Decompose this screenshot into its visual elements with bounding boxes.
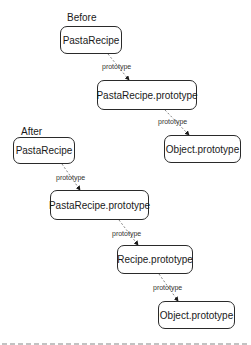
edges-layer	[0, 0, 251, 345]
before-edge-label-1: prototype	[102, 63, 131, 70]
before-label: Before	[67, 13, 96, 23]
after-node-recipe-prototype: Recipe.prototype	[117, 245, 193, 274]
after-node-pastarecipe-prototype: PastaRecipe.prototype	[50, 190, 149, 220]
before-edge-label-2: prototype	[158, 118, 187, 125]
before-node-pastarecipe-prototype: PastaRecipe.prototype	[97, 80, 197, 110]
before-node-object-prototype: Object.prototype	[164, 135, 241, 163]
before-node-pastarecipe: PastaRecipe	[60, 26, 122, 54]
after-edge-label-2: prototype	[112, 230, 141, 237]
after-edge-label-3: prototype	[153, 284, 182, 291]
after-label: After	[21, 127, 42, 137]
after-node-object-prototype: Object.prototype	[158, 301, 235, 329]
figure-caption-clipped	[0, 340, 251, 345]
after-edge-label-1: prototype	[56, 174, 85, 181]
after-node-pastarecipe: PastaRecipe	[13, 137, 75, 164]
